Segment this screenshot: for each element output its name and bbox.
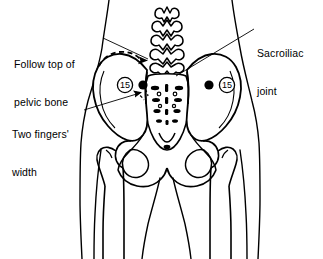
dashed-crest-arrowhead: [138, 57, 148, 65]
inner-thigh-right: [173, 178, 191, 259]
left-trochanter-tick: [106, 150, 112, 158]
label-two-fingers-line1: Two fingers': [12, 128, 69, 141]
lumbar-vertebrae: [150, 7, 184, 76]
leg-contour-right: [240, 150, 247, 259]
right-ilium-outline: [187, 54, 241, 141]
label-follow-top-line1: Follow top of: [14, 58, 75, 71]
point-right-number: 15: [222, 80, 232, 90]
point-left-dot: [138, 80, 147, 89]
right-femur-shaft-medial: [210, 168, 211, 259]
right-obturator-foramen: [185, 150, 211, 178]
right-femur-shaft: [229, 186, 231, 259]
label-two-fingers-width: Two fingers' width: [12, 103, 69, 203]
label-sacroiliac-line1: Sacroiliac: [257, 47, 304, 60]
left-obturator-foramen: [122, 150, 148, 178]
point-left-number: 15: [120, 80, 130, 90]
anatomy-figure: 15 15 Follow top of pelvic bone Sacroili…: [0, 0, 323, 259]
pubic-region: [118, 150, 216, 187]
left-femur-shaft: [103, 186, 105, 259]
point-right-dot: [204, 80, 213, 89]
right-femoral-head: [203, 141, 219, 168]
right-ilium: [187, 54, 241, 170]
sacrum: [145, 74, 190, 150]
right-trochanter-tick: [222, 150, 228, 158]
right-greater-trochanter: [218, 147, 237, 186]
left-femur-shaft-medial: [123, 168, 124, 259]
label-sacroiliac-line2: joint: [257, 85, 304, 98]
coccyx-tip: [164, 145, 171, 149]
inner-thigh-left: [142, 178, 160, 259]
left-femoral-head: [115, 141, 131, 168]
leg-contour-left: [94, 150, 101, 259]
label-sacroiliac-joint: Sacroiliac joint: [257, 22, 304, 122]
left-pubic-ramus: [118, 168, 167, 187]
left-ilium-outline: [93, 54, 147, 141]
label-two-fingers-line2: width: [12, 166, 69, 179]
femurs: [97, 141, 237, 259]
